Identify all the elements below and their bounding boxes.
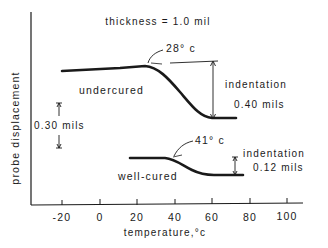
x-axis-title: temperature,°c <box>124 227 207 238</box>
undercured-label: undercured <box>79 84 144 96</box>
scale-bar-label: 0.30 mils <box>34 120 85 131</box>
tick-label: 40 <box>168 211 182 223</box>
ind2-value: 0.12 mils <box>253 162 304 173</box>
ind1-baseline <box>170 61 218 63</box>
ind1-value: 0.40 mils <box>234 99 285 110</box>
t41-label: 41° c <box>195 134 225 146</box>
ind2-label: indentation <box>243 148 305 159</box>
t41-pointer <box>174 141 193 156</box>
y-axis-title: probe displacement <box>9 71 21 184</box>
t28-tick <box>151 63 162 64</box>
wellcured-label: well-cured <box>117 170 178 182</box>
ind1-label: indentation <box>225 79 287 90</box>
tick-label: -20 <box>53 211 72 223</box>
tick-label: 80 <box>243 211 257 223</box>
x-axis <box>31 203 303 205</box>
chart-title: thickness = 1.0 mil <box>105 16 210 27</box>
chart: -20 0 20 40 60 80 100 temperature,°c pro… <box>0 0 328 248</box>
tick-label: 60 <box>205 211 219 223</box>
t28-pointer <box>148 50 163 63</box>
x-tick-labels: -20 0 20 40 60 80 100 <box>53 210 298 223</box>
t28-label: 28° c <box>166 42 196 54</box>
tick-label: 20 <box>130 211 144 223</box>
tick-label: 100 <box>276 210 297 222</box>
tick-label: 0 <box>96 211 103 223</box>
